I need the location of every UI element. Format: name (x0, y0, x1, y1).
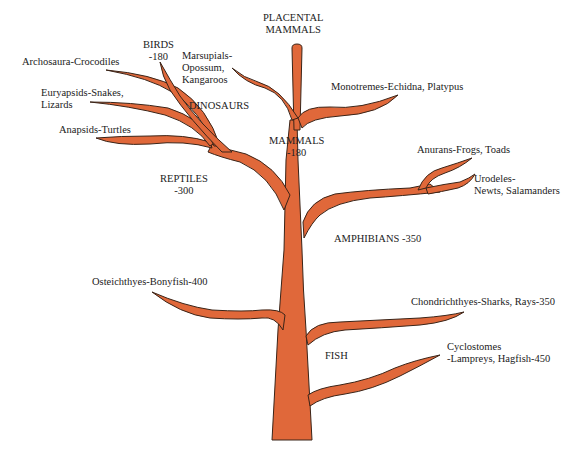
label-urodeles: Urodeles- Newts, Salamanders (474, 173, 560, 197)
label-line: Cyclostomes (447, 341, 550, 353)
label-anapsids: Anapsids-Turtles (59, 124, 131, 136)
trunk (272, 120, 312, 440)
label-dinosaurs: DINOSAURS (189, 100, 249, 112)
label-cyclostomes: Cyclostomes -Lampreys, Hagfish-450 (447, 341, 550, 365)
label-amphibians: AMPHIBIANS -350 (334, 233, 421, 245)
label-line: MAMMALS (263, 24, 323, 36)
branch-chondrichthyes (306, 312, 464, 345)
branch-cyclostomes (308, 355, 440, 406)
label-monotremes: Monotremes-Echidna, Platypus (331, 81, 463, 93)
label-line: Kangaroos (182, 74, 232, 86)
label-line: Opossum, (182, 62, 232, 74)
label-mammals: MAMMALS -180 (269, 135, 324, 159)
label-line: PLACENTAL (263, 12, 323, 24)
label-line: -180 (269, 147, 324, 159)
label-line: Marsupials- (182, 50, 232, 62)
label-chondrichthyes: Chondrichthyes-Sharks, Rays-350 (411, 296, 555, 308)
label-line: Euryapsids-Snakes, (41, 87, 124, 99)
label-line: Lizards (41, 99, 124, 111)
label-line: BIRDS (143, 39, 174, 51)
label-line: -300 (160, 185, 208, 197)
label-birds: BIRDS -180 (143, 39, 174, 63)
label-line: -Lampreys, Hagfish-450 (447, 353, 550, 365)
label-line: Newts, Salamanders (474, 185, 560, 197)
label-archosaura: Archosaura-Crocodiles (22, 56, 119, 68)
label-euryapsids: Euryapsids-Snakes, Lizards (41, 87, 124, 111)
label-osteichthyes: Osteichthyes-Bonyfish-400 (92, 276, 208, 288)
label-line: REPTILES (160, 173, 208, 185)
branch-monotremes (298, 95, 398, 128)
label-marsupials: Marsupials- Opossum, Kangaroos (182, 50, 232, 86)
label-reptiles: REPTILES -300 (160, 173, 208, 197)
label-anurans: Anurans-Frogs, Toads (417, 144, 510, 156)
label-line: Urodeles- (474, 173, 560, 185)
branch-anapsids (96, 136, 212, 148)
branch-marsupials (232, 68, 298, 120)
label-line: -180 (143, 51, 174, 63)
label-fish: FISH (325, 350, 348, 362)
label-line: MAMMALS (269, 135, 324, 147)
label-placental-mammals: PLACENTAL MAMMALS (263, 12, 323, 36)
branch-osteichthyes (152, 292, 285, 330)
branch-amphibians (303, 184, 440, 238)
